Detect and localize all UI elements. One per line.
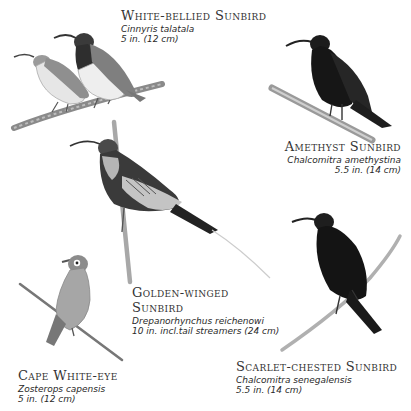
common-name: Cape White-eye xyxy=(18,369,118,384)
scientific-name: Zosterops capensis xyxy=(18,384,118,394)
common-name: Amethyst Sunbird xyxy=(285,140,401,155)
size-text: 5 in. (12 cm) xyxy=(121,34,266,44)
illustrations xyxy=(0,0,411,411)
scientific-name: Cinnyris talatala xyxy=(121,24,266,34)
common-name-line-2: Sunbird xyxy=(132,301,279,316)
common-name: Scarlet-chested Sunbird xyxy=(236,360,397,375)
common-name: White-bellied Sunbird xyxy=(121,9,266,24)
common-name-line-1: Golden-winged xyxy=(132,286,279,301)
size-text: 10 in. incl.tail streamers (24 cm) xyxy=(132,326,279,336)
bird-plate: White-bellied Sunbird Cinnyris talatala … xyxy=(0,0,411,411)
white-bellied-sunbird-illustration xyxy=(14,33,162,128)
label-amethyst-sunbird: Amethyst Sunbird Chalcomitra amethystina… xyxy=(285,140,401,176)
size-text: 5.5 in. (14 cm) xyxy=(236,385,397,395)
cape-white-eye-illustration xyxy=(20,255,122,360)
size-text: 5.5 in. (14 cm) xyxy=(285,165,401,175)
amethyst-sunbird-illustration xyxy=(272,35,392,140)
scarlet-chested-sunbird-illustration xyxy=(282,213,400,350)
golden-winged-sunbird-illustration xyxy=(70,122,270,282)
label-white-bellied-sunbird: White-bellied Sunbird Cinnyris talatala … xyxy=(121,9,266,45)
label-cape-white-eye: Cape White-eye Zosterops capensis 5 in. … xyxy=(18,369,118,405)
scientific-name: Chalcomitra amethystina xyxy=(285,155,401,165)
label-golden-winged-sunbird: Golden-winged Sunbird Drepanorhynchus re… xyxy=(132,286,279,337)
scientific-name: Drepanorhynchus reichenowi xyxy=(132,316,279,326)
size-text: 5 in. (12 cm) xyxy=(18,394,118,404)
scientific-name: Chalcomitra senegalensis xyxy=(236,375,397,385)
label-scarlet-chested-sunbird: Scarlet-chested Sunbird Chalcomitra sene… xyxy=(236,360,397,396)
